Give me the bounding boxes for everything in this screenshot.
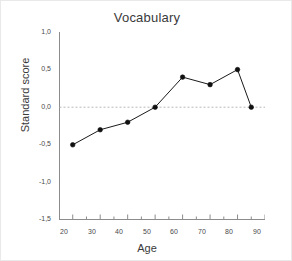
data-series-vocabulary bbox=[70, 67, 253, 147]
data-point bbox=[70, 143, 75, 148]
axes bbox=[59, 32, 265, 220]
data-point bbox=[98, 127, 103, 132]
plot-area bbox=[59, 32, 265, 220]
data-point bbox=[153, 105, 158, 110]
line-chart-svg bbox=[59, 32, 265, 220]
y-tick-label-3: 0,0 bbox=[17, 103, 51, 110]
x-tick-label-2: 30 bbox=[83, 228, 101, 235]
x-axis-title: Age bbox=[1, 242, 292, 254]
chart-title: Vocabulary bbox=[1, 10, 292, 25]
y-tick-label-2: 0,5 bbox=[17, 65, 51, 72]
x-tick-label-8: 90 bbox=[248, 228, 266, 235]
data-point bbox=[249, 105, 254, 110]
x-tick-label-1: 20 bbox=[55, 228, 73, 235]
y-tick-label-5: -1,0 bbox=[17, 178, 51, 185]
chart-figure: Vocabulary Standard score Age 1,0 0,5 0,… bbox=[0, 0, 292, 261]
data-point bbox=[180, 75, 185, 80]
y-tick-label-1: 1,0 bbox=[17, 28, 51, 35]
y-tick-label-4: -0,5 bbox=[17, 140, 51, 147]
data-point bbox=[125, 120, 130, 125]
x-tick-label-4: 50 bbox=[138, 228, 156, 235]
data-point bbox=[235, 67, 240, 72]
data-point bbox=[208, 82, 213, 87]
y-tick-label-6: -1,5 bbox=[17, 215, 51, 222]
x-tick-label-5: 60 bbox=[165, 228, 183, 235]
x-tick-label-3: 40 bbox=[110, 228, 128, 235]
x-tick-label-7: 80 bbox=[220, 228, 238, 235]
x-tick-label-6: 70 bbox=[193, 228, 211, 235]
